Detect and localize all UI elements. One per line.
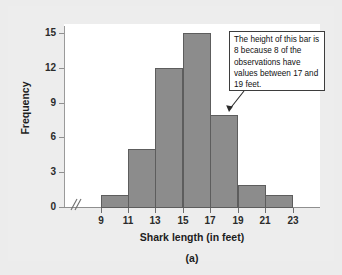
x-axis-label: 17 bbox=[198, 215, 222, 226]
x-tick-17 bbox=[210, 208, 211, 213]
x-tick-23 bbox=[293, 208, 294, 213]
y-axis-label: 9 bbox=[38, 98, 56, 108]
x-axis-label: 11 bbox=[116, 215, 140, 226]
x-axis-label: 21 bbox=[253, 215, 277, 226]
x-tick-19 bbox=[238, 208, 239, 213]
y-tick-0 bbox=[59, 207, 64, 208]
y-label-0-wrap: 0 bbox=[22, 202, 56, 212]
y-axis-label: 12 bbox=[38, 63, 56, 73]
callout-arrow-icon bbox=[220, 90, 246, 116]
x-tick-21 bbox=[265, 208, 266, 213]
y-tick-6 bbox=[59, 137, 64, 138]
x-axis-label: 19 bbox=[226, 215, 250, 226]
x-axis-label: 9 bbox=[89, 215, 113, 226]
x-tick-11 bbox=[128, 208, 129, 213]
bar-15-17 bbox=[183, 33, 211, 208]
x-tick-15 bbox=[183, 208, 184, 213]
figure-panel: 0 3 6 9 12 15 9 bbox=[8, 6, 334, 261]
bar-13-15 bbox=[155, 68, 183, 208]
x-tick-9 bbox=[101, 208, 102, 213]
x-axis-label: 15 bbox=[171, 215, 195, 226]
bar-21-23 bbox=[265, 195, 293, 208]
bar-19-21 bbox=[238, 185, 266, 208]
x-axis-title: Shark length (in feet) bbox=[64, 231, 320, 243]
annotation-callout: The height of this bar is 8 because 8 of… bbox=[229, 31, 325, 91]
histogram-figure: 0 3 6 9 12 15 9 bbox=[0, 0, 342, 275]
x-axis-label: 23 bbox=[281, 215, 305, 226]
figure-caption: (a) bbox=[64, 252, 320, 264]
y-axis-label: 3 bbox=[38, 167, 56, 177]
bar-11-13 bbox=[128, 149, 156, 208]
y-axis-label: 0 bbox=[38, 202, 56, 212]
y-axis-label: 15 bbox=[38, 28, 56, 38]
y-tick-15 bbox=[59, 33, 64, 34]
y-tick-9 bbox=[59, 103, 64, 104]
bar-17-19 bbox=[210, 115, 238, 208]
y-tick-12 bbox=[59, 68, 64, 69]
x-axis-label: 13 bbox=[143, 215, 167, 226]
y-label-3-wrap: 3 bbox=[22, 167, 56, 177]
y-axis-title: Frequency bbox=[19, 58, 31, 158]
bar-9-11 bbox=[101, 195, 129, 208]
y-tick-3 bbox=[59, 172, 64, 173]
y-label-15-wrap: 15 bbox=[22, 28, 56, 38]
axis-break-icon bbox=[68, 198, 84, 212]
x-tick-13 bbox=[155, 208, 156, 213]
y-axis-line bbox=[64, 26, 65, 208]
y-axis-label: 6 bbox=[38, 132, 56, 142]
